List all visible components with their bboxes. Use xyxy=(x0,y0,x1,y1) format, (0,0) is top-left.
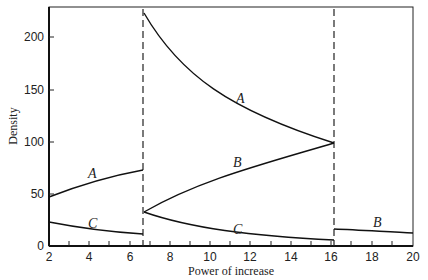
curve-label-a: A xyxy=(87,166,97,181)
curve-label-a: A xyxy=(235,91,245,106)
x-tick-label: 4 xyxy=(86,250,93,264)
curve-a-segment-2 xyxy=(144,13,334,143)
y-tick-label: 0 xyxy=(37,239,44,253)
x-tick-label: 2 xyxy=(46,250,53,264)
x-tick-label: 6 xyxy=(127,250,134,264)
curve-label-b: B xyxy=(233,155,242,170)
y-tick-label: 50 xyxy=(31,187,45,201)
x-tick-label: 20 xyxy=(406,250,420,264)
curve-label-c: C xyxy=(233,222,243,237)
x-tick-label: 8 xyxy=(167,250,174,264)
curve-b-segment-2 xyxy=(144,143,334,212)
x-tick-label: 12 xyxy=(243,250,257,264)
y-axis-title: Density xyxy=(6,107,20,144)
density-chart: 0 50 100 150 200 2 4 6 8 10 12 14 16 18 … xyxy=(0,0,428,280)
y-tick-label: 200 xyxy=(24,30,44,44)
x-tick-label: 16 xyxy=(324,250,338,264)
curve-label-b: B xyxy=(373,215,382,230)
x-tick-label: 14 xyxy=(284,250,298,264)
y-tick-label: 150 xyxy=(24,83,44,97)
x-tick-label: 18 xyxy=(365,250,379,264)
x-tick-label: 10 xyxy=(203,250,217,264)
y-tick-label: 100 xyxy=(24,135,44,149)
plot-frame xyxy=(49,7,413,246)
x-axis-title: Power of increase xyxy=(188,264,274,278)
curve-label-c: C xyxy=(88,216,98,231)
